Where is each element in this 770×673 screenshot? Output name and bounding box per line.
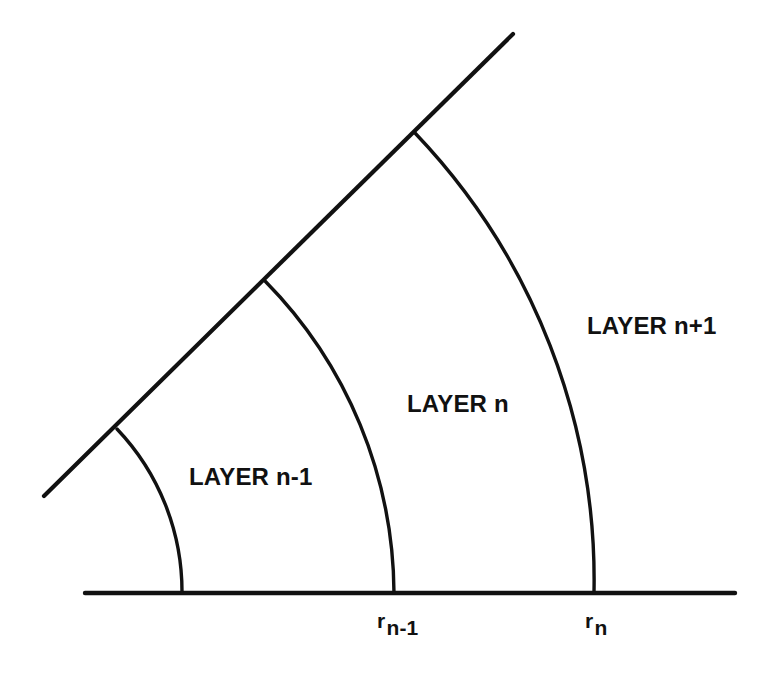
radius-subscript: n-1 bbox=[386, 617, 418, 638]
arc-inner-boundary bbox=[117, 429, 182, 593]
layer-label-outer: LAYER n+1 bbox=[587, 314, 717, 338]
arc-r-n-minus-1-boundary bbox=[265, 281, 394, 593]
diagonal-ray bbox=[44, 34, 513, 496]
radius-symbol: r bbox=[585, 609, 593, 632]
arc-r-n-boundary bbox=[415, 133, 594, 593]
radius-label-r-n-minus-1: rn-1 bbox=[377, 610, 418, 631]
layer-label-inner: LAYER n-1 bbox=[189, 465, 313, 489]
layer-label-middle: LAYER n bbox=[407, 392, 509, 416]
radius-symbol: r bbox=[377, 609, 385, 632]
radius-subscript: n bbox=[594, 617, 607, 638]
layered-sector-diagram: LAYER n-1 LAYER n LAYER n+1 rn-1 rn bbox=[0, 0, 770, 673]
radius-label-r-n: rn bbox=[585, 610, 607, 631]
